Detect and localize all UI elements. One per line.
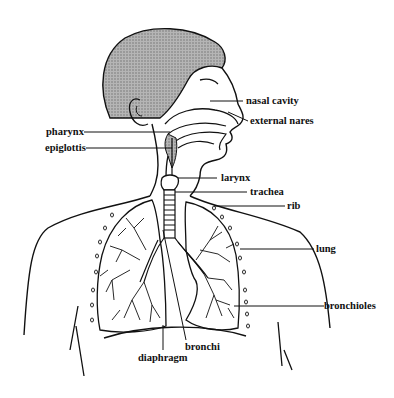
respiratory-diagram: nasal cavity external nares pharynx epig…	[0, 0, 394, 398]
larynx	[161, 175, 178, 190]
neck-back	[150, 124, 158, 196]
label-external-nares: external nares	[250, 115, 314, 127]
trachea	[164, 190, 175, 238]
label-lung: lung	[316, 243, 336, 255]
label-bronchi: bronchi	[185, 341, 220, 353]
label-pharynx: pharynx	[46, 126, 84, 138]
label-epiglottis: epiglottis	[45, 142, 86, 154]
diagram-artwork	[0, 0, 394, 398]
left-lung	[97, 200, 166, 332]
label-trachea: trachea	[250, 186, 284, 198]
label-diaphragm: diaphragm	[138, 352, 188, 364]
label-rib: rib	[287, 200, 300, 212]
label-bronchioles: bronchioles	[324, 300, 376, 312]
label-larynx: larynx	[221, 172, 250, 184]
nasal-cavity	[165, 109, 238, 124]
label-nasal-cavity: nasal cavity	[246, 95, 299, 107]
hair	[103, 29, 225, 118]
right-lung	[185, 202, 239, 330]
